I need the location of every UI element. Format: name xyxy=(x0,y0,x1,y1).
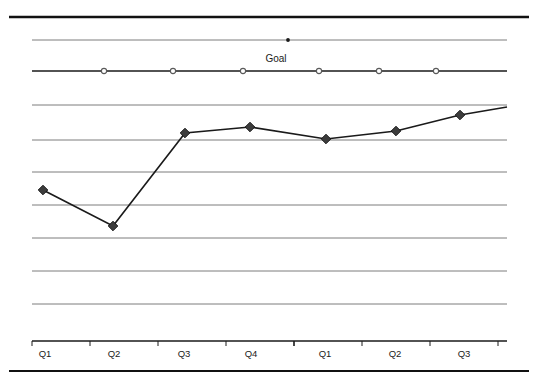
goal-marker xyxy=(170,68,175,73)
x-tick-label-q4-y1: Q4 xyxy=(245,348,258,359)
goal-marker xyxy=(433,68,438,73)
x-tick-label-q1-y1: Q1 xyxy=(39,348,52,359)
goal-marker xyxy=(101,68,106,73)
x-tick-label-q3-y2: Q3 xyxy=(458,348,471,359)
x-tick-label-q3-y1: Q3 xyxy=(178,348,191,359)
annotation-dot xyxy=(286,38,290,42)
goal-marker xyxy=(316,68,321,73)
chart-container: Goal Q1 xyxy=(0,0,538,383)
goal-marker xyxy=(240,68,245,73)
line-chart: Goal Q1 xyxy=(0,0,538,383)
goal-series-label: Goal xyxy=(265,53,286,64)
x-tick-label-q2-y2: Q2 xyxy=(389,348,402,359)
x-tick-label-q2-y1: Q2 xyxy=(108,348,121,359)
goal-marker xyxy=(376,68,381,73)
x-tick-label-q1-y2: Q1 xyxy=(319,348,332,359)
